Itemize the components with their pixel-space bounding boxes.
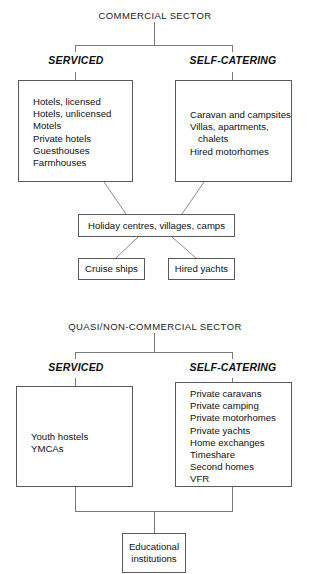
holiday-centres-box: Holiday centres, villages, camps	[78, 214, 235, 237]
commercial-self-catering-list: Caravan and campsites Villas, apartments…	[176, 109, 291, 158]
quasi-branch-label-self-catering: SELF-CATERING	[178, 361, 288, 373]
list-item: VFR	[190, 473, 291, 485]
list-item: Youth hostels	[31, 431, 132, 443]
list-item: chalets	[190, 133, 291, 145]
list-item: Home exchanges	[190, 437, 291, 449]
educational-institutions-line2: institutions	[131, 553, 176, 564]
line-selfcatering-to-holiday	[182, 182, 204, 214]
list-item: Private yachts	[190, 425, 291, 437]
list-item: Private hotels	[33, 133, 132, 145]
list-item: Private motorhomes	[190, 412, 291, 424]
list-item: Villas, apartments,	[190, 121, 291, 133]
hired-yachts-box: Hired yachts	[168, 258, 235, 280]
list-item: Hotels, unlicensed	[33, 108, 132, 120]
holiday-centres-label: Holiday centres, villages, camps	[79, 219, 234, 231]
list-item: Caravan and campsites	[190, 109, 291, 121]
line-holiday-to-cruise	[116, 237, 138, 258]
list-item: Second homes	[190, 461, 291, 473]
commercial-branch-label-self-catering: SELF-CATERING	[178, 54, 288, 66]
educational-institutions-label: Educational institutions	[123, 541, 185, 566]
hired-yachts-label: Hired yachts	[169, 263, 234, 275]
commercial-serviced-list: Hotels, licensed Hotels, unlicensed Mote…	[19, 96, 132, 169]
commercial-branch-label-serviced: SERVICED	[30, 54, 122, 66]
quasi-branch-label-serviced: SERVICED	[30, 361, 122, 373]
commercial-sector-title: COMMERCIAL SECTOR	[0, 10, 310, 21]
list-item: Hired motorhomes	[190, 146, 291, 158]
cruise-ships-box: Cruise ships	[78, 258, 145, 280]
quasi-serviced-list: Youth hostels YMCAs	[17, 431, 132, 455]
list-item: Private camping	[190, 400, 291, 412]
line-holiday-to-yachts	[172, 237, 196, 258]
quasi-serviced-box: Youth hostels YMCAs	[16, 386, 133, 487]
accommodation-sector-diagram: COMMERCIAL SECTOR SERVICED SELF-CATERING…	[0, 0, 310, 574]
list-item: Hotels, licensed	[33, 96, 132, 108]
quasi-self-catering-list: Private caravans Private camping Private…	[176, 388, 291, 486]
list-item: Timeshare	[190, 449, 291, 461]
list-item: Guesthouses	[33, 145, 132, 157]
list-item: Motels	[33, 120, 132, 132]
list-item: YMCAs	[31, 443, 132, 455]
list-item: Private caravans	[190, 388, 291, 400]
commercial-serviced-box: Hotels, licensed Hotels, unlicensed Mote…	[18, 80, 133, 182]
commercial-self-catering-box: Caravan and campsites Villas, apartments…	[175, 80, 292, 182]
quasi-self-catering-box: Private caravans Private camping Private…	[175, 382, 292, 487]
educational-institutions-line1: Educational	[129, 541, 179, 552]
quasi-sector-title: QUASI/NON-COMMERCIAL SECTOR	[0, 321, 310, 332]
list-item: Farmhouses	[33, 157, 132, 169]
cruise-ships-label: Cruise ships	[79, 263, 144, 275]
educational-institutions-box: Educational institutions	[122, 533, 186, 573]
line-serviced-to-holiday	[104, 182, 126, 214]
